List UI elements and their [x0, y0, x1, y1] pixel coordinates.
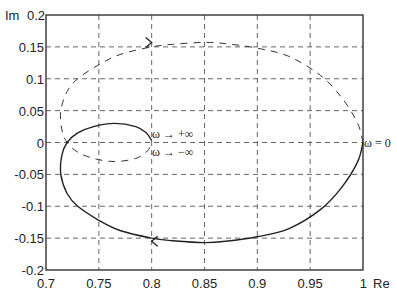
solid-curve-positive-omega [60, 123, 363, 242]
annotation-omega-pos-inf: ω → +∞ [152, 127, 193, 141]
x-tick-label: 1 [360, 276, 367, 291]
x-tick-label: 0.85 [192, 276, 217, 291]
y-tick-label: -0.05 [14, 167, 44, 182]
arrow-right-icon [146, 37, 152, 47]
y-tick-label: 0.05 [19, 104, 44, 119]
x-axis-label: Re [373, 276, 390, 291]
y-tick-label: 0.1 [26, 72, 44, 87]
dashed-curve-negative-omega [60, 42, 363, 161]
y-tick-label: -0.15 [14, 231, 44, 246]
y-tick-label: 0 [37, 136, 44, 151]
x-axis-ticks: 0.70.750.80.850.90.951 [37, 276, 367, 291]
y-tick-label: 0.15 [19, 40, 44, 55]
x-tick-label: 0.7 [37, 276, 55, 291]
y-tick-label: -0.1 [22, 199, 44, 214]
y-axis-ticks: 0.20.150.10.050-0.05-0.1-0.15-0.2 [14, 8, 45, 278]
x-tick-label: 0.75 [86, 276, 111, 291]
annotation-omega-neg-inf: ω → −∞ [152, 145, 193, 159]
y-axis-label: Im [5, 8, 19, 23]
nyquist-plot: 0.20.150.10.050-0.05-0.1-0.15-0.2 0.70.7… [0, 0, 397, 299]
y-tick-label: 0.2 [27, 8, 45, 23]
x-tick-label: 0.9 [248, 276, 266, 291]
grid-lines [46, 15, 363, 270]
x-tick-label: 0.8 [143, 276, 161, 291]
annotation-omega-zero: ω = 0 [364, 136, 391, 150]
x-tick-label: 0.95 [298, 276, 323, 291]
